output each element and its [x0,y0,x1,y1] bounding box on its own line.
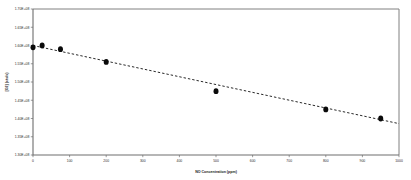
y-tick-label: 1.60E+08 [15,44,30,48]
y-tick-label: 1.40E+08 [15,117,30,121]
x-tick-label: 200 [103,159,109,163]
y-tick-label: 1.55E+08 [15,62,30,66]
data-point [31,44,36,50]
x-tick-label: 300 [140,159,146,163]
x-tick-label: 100 [67,159,73,163]
data-point [323,106,328,112]
data-point [58,46,63,52]
x-tick-label: 800 [323,159,329,163]
plot-area [33,9,399,155]
data-point [378,116,383,122]
data-point [40,43,45,49]
x-tick-label: 1000 [395,159,403,163]
y-tick-label: 1.30E+08 [15,153,30,157]
y-tick-label: 1.45E+08 [15,99,30,103]
x-tick-label: 600 [250,159,256,163]
x-tick-label: 500 [213,159,219,163]
y-tick-label: 1.70E+08 [15,7,30,11]
y-axis-title: [O2] (cts/s) [5,72,9,92]
x-tick-label: 700 [286,159,292,163]
y-tick-label: 1.35E+08 [15,135,30,139]
y-tick-label: 1.65E+08 [15,26,30,30]
data-point [104,59,109,65]
chart-container: 1.30E+081.35E+081.40E+081.45E+081.50E+08… [0,0,411,180]
x-axis-title: NO Concentration (ppm) [195,170,238,174]
scatter-plot: 1.30E+081.35E+081.40E+081.45E+081.50E+08… [0,0,411,180]
x-tick-label: 0 [32,159,34,163]
x-tick-label: 900 [360,159,366,163]
y-tick-label: 1.50E+08 [15,80,30,84]
data-point [214,88,219,94]
x-tick-label: 400 [177,159,183,163]
